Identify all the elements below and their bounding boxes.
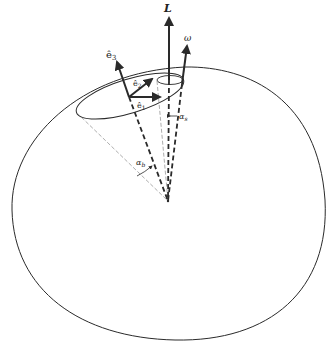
alpha-s-label: αs	[179, 112, 188, 122]
L-axis-dashed	[168, 80, 169, 201]
e1-label: ê1	[137, 101, 146, 111]
alpha-b-label: αb	[136, 158, 145, 168]
body-cone-edge	[77, 113, 168, 201]
e3-label: ê3	[106, 49, 116, 62]
e2-label: ê2	[133, 79, 142, 89]
omega-label: ω	[184, 33, 192, 43]
L-label: L	[163, 2, 172, 15]
omega-axis-dashed	[168, 84, 182, 201]
apex-point	[167, 200, 169, 202]
omega-vector	[182, 46, 187, 84]
e3-axis-dashed	[129, 97, 168, 201]
rigid-body-diagram: L ω ê3 ê2 ê1 αb αs	[0, 0, 331, 346]
